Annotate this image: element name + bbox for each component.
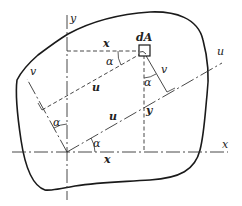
- alpha-origin-label: α: [93, 137, 101, 150]
- v-right-label: v: [161, 63, 168, 76]
- area-outline: [16, 12, 208, 190]
- alpha-left-label: α: [53, 116, 61, 129]
- u-axis-label: u: [217, 45, 224, 58]
- v-axis-label: v: [30, 65, 37, 78]
- alpha-right-label: α: [144, 76, 152, 89]
- rotated-axes-diagram: y x u v dA x x y u u v α α α α: [0, 0, 242, 206]
- u-bottom-label: u: [109, 110, 117, 123]
- alpha-top-label: α: [106, 55, 114, 68]
- da-element: [139, 45, 150, 56]
- x-top-label: x: [102, 37, 110, 50]
- da-label: dA: [136, 31, 153, 44]
- u-top-label: u: [92, 81, 100, 94]
- v-axis: [27, 79, 67, 152]
- v-foot-tick: [167, 88, 175, 92]
- y-right-label: y: [145, 104, 154, 117]
- x-bottom-label: x: [103, 153, 111, 166]
- y-axis-label: y: [69, 12, 77, 25]
- x-axis-label: x: [222, 138, 229, 151]
- alpha-arc-top: [118, 51, 121, 65]
- u-foot-tick: [38, 103, 42, 110]
